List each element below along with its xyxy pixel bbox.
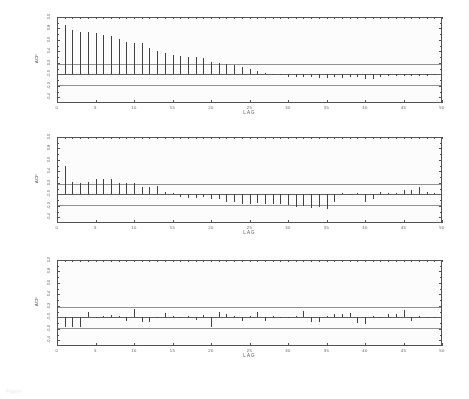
x-minor-tickmark-top bbox=[119, 260, 120, 262]
x-minor-tickmark-top bbox=[257, 260, 258, 262]
acf-bar bbox=[219, 312, 220, 317]
x-minor-tickmark-top bbox=[180, 260, 181, 262]
x-minor-tickmark bbox=[342, 345, 343, 347]
y-minor-tickmark bbox=[57, 277, 59, 278]
y-minor-tickmark bbox=[57, 266, 59, 267]
y-tickmark bbox=[57, 340, 60, 341]
x-minor-tickmark-top bbox=[396, 260, 397, 262]
x-minor-tickmark-top bbox=[165, 260, 166, 262]
y-minor-tickmark bbox=[57, 312, 59, 313]
x-minor-tickmark-top bbox=[234, 260, 235, 262]
y-axis-label: ACF bbox=[34, 292, 39, 312]
x-tick-label: 50 bbox=[435, 348, 449, 353]
y-tickmark-right bbox=[439, 340, 442, 341]
x-tickmark bbox=[404, 343, 405, 346]
y-tick-label: -0.4 bbox=[46, 333, 51, 347]
acf-bar bbox=[165, 313, 166, 318]
acf-bar bbox=[196, 317, 197, 320]
y-minor-tickmark-right bbox=[440, 266, 442, 267]
x-minor-tickmark bbox=[119, 345, 120, 347]
x-tickmark-top bbox=[57, 260, 58, 262]
x-tickmark-top bbox=[134, 260, 135, 262]
acf-bar bbox=[319, 317, 320, 322]
x-tick-label: 20 bbox=[204, 348, 218, 353]
x-minor-tickmark bbox=[257, 345, 258, 347]
acf-bar bbox=[365, 317, 366, 323]
acf-bar bbox=[380, 317, 381, 318]
acf-bar bbox=[119, 316, 120, 317]
x-minor-tickmark-top bbox=[265, 260, 266, 262]
x-minor-tickmark-top bbox=[357, 260, 358, 262]
acf-bar bbox=[88, 312, 89, 318]
x-minor-tickmark-top bbox=[65, 260, 66, 262]
acf-bar bbox=[126, 317, 127, 320]
x-tickmark bbox=[365, 343, 366, 346]
x-tickmark-top bbox=[365, 260, 366, 262]
acf-bar bbox=[419, 316, 420, 317]
x-minor-tickmark bbox=[427, 345, 428, 347]
acf-bar bbox=[396, 314, 397, 317]
x-minor-tickmark bbox=[265, 345, 266, 347]
acf-bar bbox=[226, 314, 227, 317]
x-minor-tickmark bbox=[219, 345, 220, 347]
x-minor-tickmark bbox=[88, 345, 89, 347]
x-minor-tickmark-top bbox=[111, 260, 112, 262]
y-tickmark bbox=[57, 294, 60, 295]
acf-bar bbox=[250, 316, 251, 317]
acf-bar bbox=[111, 315, 112, 317]
x-minor-tickmark bbox=[234, 345, 235, 347]
x-minor-tickmark bbox=[149, 345, 150, 347]
acf-bar bbox=[142, 317, 143, 322]
acf-bar bbox=[350, 313, 351, 318]
x-tick-label: 0 bbox=[50, 348, 64, 353]
acf-bar bbox=[157, 317, 158, 318]
y-minor-tickmark-right bbox=[440, 289, 442, 290]
acf-bar bbox=[134, 309, 135, 317]
x-minor-tickmark bbox=[188, 345, 189, 347]
acf-bar bbox=[388, 314, 389, 317]
y-minor-tickmark-right bbox=[440, 335, 442, 336]
x-minor-tickmark bbox=[165, 345, 166, 347]
plot-frame-3 bbox=[57, 260, 442, 346]
x-minor-tickmark bbox=[103, 345, 104, 347]
x-minor-tickmark bbox=[80, 345, 81, 347]
acf-bar bbox=[303, 311, 304, 317]
x-minor-tickmark-top bbox=[303, 260, 304, 262]
x-minor-tickmark-top bbox=[334, 260, 335, 262]
x-minor-tickmark-top bbox=[226, 260, 227, 262]
x-tick-label: 40 bbox=[358, 348, 372, 353]
x-minor-tickmark bbox=[357, 345, 358, 347]
x-minor-tickmark bbox=[65, 345, 66, 347]
x-minor-tickmark bbox=[380, 345, 381, 347]
acf-bar bbox=[327, 316, 328, 317]
acf-figure: 1.00.80.60.40.2-0.0-0.2-0.4ACF0510152025… bbox=[0, 0, 469, 399]
acf-bar bbox=[180, 317, 181, 318]
acf-bar bbox=[288, 317, 289, 318]
x-minor-tickmark-top bbox=[149, 260, 150, 262]
acf-panel-3: 1.00.80.60.40.2-0.0-0.2-0.4ACF0510152025… bbox=[0, 0, 469, 399]
x-tickmark bbox=[96, 343, 97, 346]
x-minor-tickmark-top bbox=[273, 260, 274, 262]
x-minor-tickmark bbox=[350, 345, 351, 347]
x-tick-label: 25 bbox=[243, 348, 257, 353]
y-tickmark bbox=[57, 271, 60, 272]
acf-bar bbox=[427, 317, 428, 318]
acf-bar bbox=[311, 317, 312, 322]
x-tickmark-top bbox=[96, 260, 97, 262]
x-tick-label: 45 bbox=[397, 348, 411, 353]
x-tickmark-top bbox=[404, 260, 405, 262]
x-tickmark-top bbox=[288, 260, 289, 262]
x-minor-tickmark-top bbox=[419, 260, 420, 262]
x-tickmark bbox=[250, 343, 251, 346]
x-tickmark bbox=[134, 343, 135, 346]
x-tick-label: 35 bbox=[320, 348, 334, 353]
x-minor-tickmark bbox=[111, 345, 112, 347]
x-minor-tickmark bbox=[434, 345, 435, 347]
x-minor-tickmark-top bbox=[319, 260, 320, 262]
x-minor-tickmark bbox=[226, 345, 227, 347]
confidence-band-upper bbox=[58, 307, 441, 308]
acf-bar bbox=[72, 317, 73, 326]
y-tickmark bbox=[57, 329, 60, 330]
x-minor-tickmark bbox=[334, 345, 335, 347]
acf-bar bbox=[103, 316, 104, 318]
